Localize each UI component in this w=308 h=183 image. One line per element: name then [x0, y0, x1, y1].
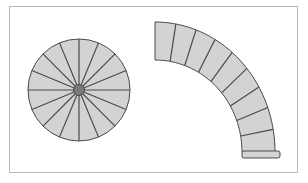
staircase-diagram	[0, 0, 308, 183]
center-post	[74, 85, 85, 96]
spiral-staircase-plan	[28, 39, 130, 141]
landing-plate	[242, 151, 280, 158]
curved-staircase-plan	[155, 22, 280, 158]
